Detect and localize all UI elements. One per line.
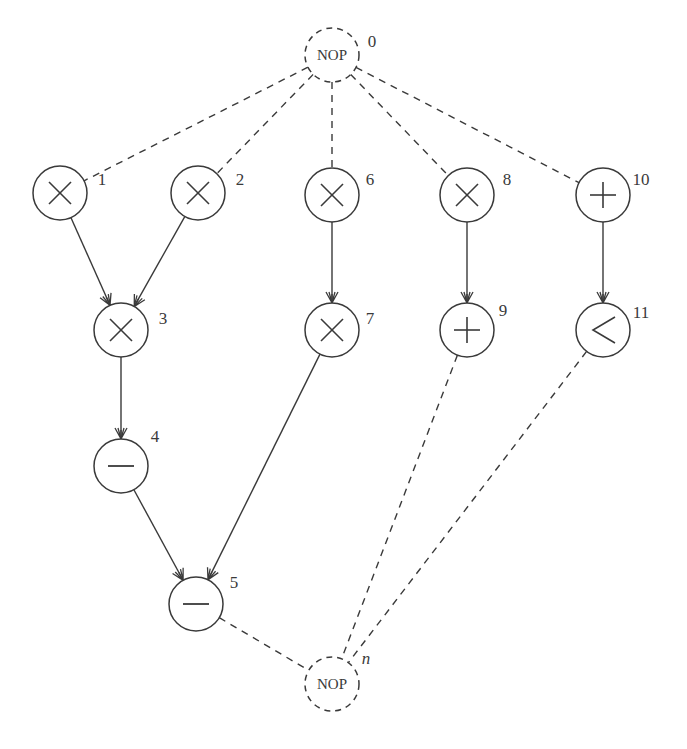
edge-0-to-10 xyxy=(356,67,579,182)
edge-4-to-5 xyxy=(134,490,183,581)
node-2: 2 xyxy=(171,166,244,220)
node-0: NOP0 xyxy=(305,28,376,82)
node-circle xyxy=(576,303,630,357)
node-number-label: 6 xyxy=(366,170,375,189)
edges-layer xyxy=(71,67,603,670)
edge-2-to-3 xyxy=(134,217,185,307)
node-9: 9 xyxy=(440,301,507,357)
node-number-label: 0 xyxy=(368,32,377,51)
nop-text: NOP xyxy=(317,676,347,692)
node-5: 5 xyxy=(169,573,238,631)
edge-1-to-3 xyxy=(71,218,110,306)
node-number-label: 7 xyxy=(366,309,375,328)
node-6: 6 xyxy=(305,168,374,222)
edge-5-to-n xyxy=(219,618,308,671)
node-n: NOPn xyxy=(305,649,370,711)
node-8: 8 xyxy=(440,168,511,222)
edge-0-to-1 xyxy=(84,67,308,181)
node-number-label: n xyxy=(362,649,371,668)
nodes-layer: NOP01234567891011NOPn xyxy=(33,28,650,711)
node-number-label: 8 xyxy=(503,170,512,189)
edge-0-to-2 xyxy=(217,74,313,173)
node-number-label: 11 xyxy=(633,303,649,322)
node-10: 10 xyxy=(576,168,650,222)
sequencing-graph: NOP01234567891011NOPn xyxy=(0,0,687,749)
node-number-label: 5 xyxy=(230,573,239,592)
nop-text: NOP xyxy=(317,47,347,63)
node-3: 3 xyxy=(94,303,167,357)
edge-0-to-8 xyxy=(351,74,449,175)
edge-9-to-n xyxy=(342,355,458,659)
node-1: 1 xyxy=(33,166,106,220)
node-number-label: 9 xyxy=(499,301,508,320)
sequencing-graph-canvas: NOP01234567891011NOPn xyxy=(0,0,687,749)
node-number-label: 10 xyxy=(633,170,650,189)
node-4: 4 xyxy=(94,427,160,493)
node-7: 7 xyxy=(305,303,375,357)
node-number-label: 3 xyxy=(159,309,168,328)
node-number-label: 1 xyxy=(98,170,107,189)
edge-11-to-n xyxy=(348,351,586,662)
edge-7-to-5 xyxy=(208,354,320,580)
node-number-label: 4 xyxy=(151,427,160,446)
node-11: 11 xyxy=(576,303,649,357)
node-number-label: 2 xyxy=(236,170,245,189)
